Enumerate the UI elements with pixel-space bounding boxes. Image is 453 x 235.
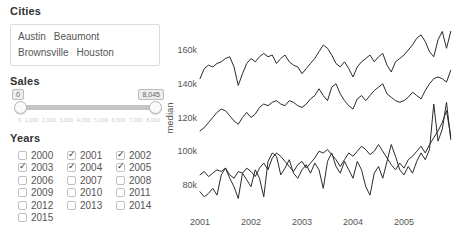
y-tick-label: 120k — [177, 113, 197, 123]
y-tick-label: 160k — [177, 45, 197, 55]
x-tick-label: 2003 — [292, 217, 312, 227]
x-tick-label: 2004 — [343, 217, 363, 227]
dashboard: Cities AustinBeaumontBrownsvilleHouston … — [0, 0, 453, 235]
median-line-chart: median80k100k120k140k160k200120022003200… — [0, 0, 453, 235]
chart-line-3 — [200, 111, 451, 179]
x-tick-label: 2002 — [241, 217, 261, 227]
x-tick-label: 2001 — [190, 217, 210, 227]
y-tick-label: 140k — [177, 79, 197, 89]
chart-line-1 — [200, 31, 451, 85]
y-axis-title: median — [164, 102, 175, 133]
x-tick-label: 2005 — [394, 217, 414, 227]
y-tick-label: 100k — [177, 146, 197, 156]
chart-line-2 — [200, 70, 451, 131]
chart-line-4 — [200, 102, 451, 198]
y-tick-label: 80k — [182, 180, 197, 190]
